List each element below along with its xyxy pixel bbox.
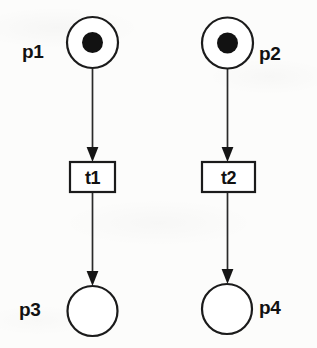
place-p1[interactable] [67, 17, 118, 68]
arc-p2-to-t2 [222, 69, 234, 162]
place-circle[interactable] [68, 286, 118, 336]
arrowhead-icon [222, 147, 234, 162]
place-p3[interactable] [68, 286, 118, 336]
place-p2[interactable] [202, 18, 253, 69]
arc-p1-to-t1 [87, 69, 99, 162]
place-label-p4: p4 [259, 298, 280, 317]
arrowhead-icon [87, 147, 99, 162]
place-circle[interactable] [202, 284, 252, 334]
arc-t2-to-p4 [222, 192, 234, 284]
token-dot [82, 32, 103, 53]
place-label-p3: p3 [19, 300, 40, 319]
arrowhead-icon [222, 269, 234, 284]
place-p4[interactable] [202, 284, 252, 334]
arrowhead-icon [87, 271, 99, 286]
arc-t1-to-p3 [87, 192, 99, 286]
transition-label-t1: t1 [70, 169, 115, 187]
place-label-p2: p2 [259, 44, 280, 63]
transition-label-t2: t2 [202, 169, 255, 187]
petri-net-canvas: p1 p2 p3 p4 t1 t2 [0, 0, 317, 348]
place-label-p1: p1 [22, 42, 43, 61]
token-dot [217, 33, 238, 54]
